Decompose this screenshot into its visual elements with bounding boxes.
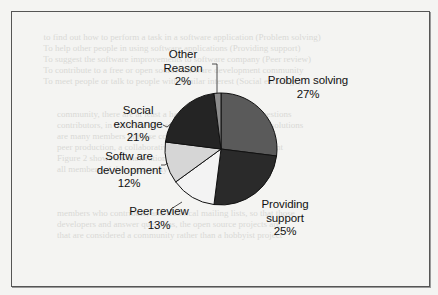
label-social-exchange: Social exchange 21% (108, 104, 168, 145)
pie-chart (0, 0, 438, 295)
label-software-development: Softw are development 12% (92, 150, 166, 191)
slice-providing-support (214, 149, 277, 205)
label-providing-support: Providing support 25% (255, 198, 315, 239)
slice-social-exchange (165, 93, 221, 149)
label-peer-review: Peer review 13% (124, 205, 194, 232)
slice-problem-solving (221, 93, 277, 156)
label-problem-solving: Problem solving 27% (258, 74, 358, 101)
label-other-reason: Other Reason 2% (152, 48, 214, 89)
